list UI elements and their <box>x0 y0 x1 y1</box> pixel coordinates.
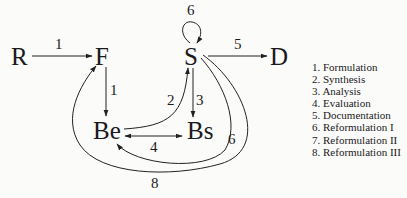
legend-item-reformulation-3: 8. Reformulation III <box>312 146 401 158</box>
node-s: S <box>184 43 198 70</box>
legend-item-evaluation: 4. Evaluation <box>312 97 401 109</box>
edge-s-self-loop <box>183 22 201 43</box>
legend-item-formulation: 1. Formulation <box>312 61 401 73</box>
edge-label-synthesis: 2 <box>167 92 175 108</box>
edge-label-formulation-2: 1 <box>110 82 118 98</box>
edge-label-formulation-1: 1 <box>55 36 63 52</box>
edge-label-analysis: 3 <box>196 92 204 108</box>
legend-item-synthesis: 2. Synthesis <box>312 73 401 85</box>
edge-label-reformulation-2: 6 <box>228 131 236 147</box>
edge-label-documentation: 5 <box>234 36 242 52</box>
edge-s-to-be <box>117 58 231 163</box>
node-be: Be <box>93 117 121 144</box>
node-d: D <box>270 43 288 70</box>
legend: 1. Formulation 2. Synthesis 3. Analysis … <box>312 61 401 158</box>
edge-be-to-s <box>124 68 188 129</box>
edge-s-to-f <box>72 55 247 172</box>
node-f: F <box>95 43 109 70</box>
legend-item-documentation: 5. Documentation <box>312 109 401 121</box>
fbs-diagram: R F S D Be Bs 1 1 2 3 4 5 6 6 8 1. <box>0 0 407 198</box>
legend-item-analysis: 3. Analysis <box>312 85 401 97</box>
legend-item-reformulation-2: 7. Reformulation II <box>312 134 401 146</box>
edge-label-reformulation-1: 6 <box>187 2 195 18</box>
legend-item-reformulation-1: 6. Reformulation I <box>312 121 401 133</box>
edge-label-reformulation-3: 8 <box>151 175 159 191</box>
edge-label-evaluation: 4 <box>150 139 158 155</box>
node-r: R <box>11 43 28 70</box>
node-bs: Bs <box>187 117 213 144</box>
